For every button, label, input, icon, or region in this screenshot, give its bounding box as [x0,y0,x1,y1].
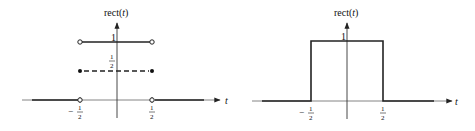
right-panel: rect(t) 1 − 1 2 1 2 t [252,7,458,122]
left-half-level-label: 1 2 [109,53,115,70]
left-xlabel: t [225,95,228,106]
left-panel: rect(t) 1 1 2 − 1 2 1 2 t [22,7,228,121]
left-tick-label-pos-half: 1 2 [149,104,155,121]
svg-text:1: 1 [110,53,114,61]
open-point-top-right [150,40,154,44]
left-level-one-label: 1 [111,32,116,43]
right-level-one-label: 1 [341,31,346,42]
rect-pulse [262,41,434,101]
svg-text:2: 2 [110,62,114,70]
svg-text:1: 1 [381,105,385,113]
right-tick-label-neg-half: − 1 2 [299,105,314,122]
right-tick-label-pos-half: 1 2 [380,105,386,122]
svg-text:−: − [68,106,73,116]
left-ylabel: rect(t) [104,7,128,19]
svg-text:1: 1 [309,105,313,113]
rect-function-figure: rect(t) 1 1 2 − 1 2 1 2 t rect(t) [0,0,475,131]
open-point-axis-right [150,98,154,102]
svg-text:2: 2 [150,113,154,121]
svg-text:2: 2 [309,114,313,122]
svg-text:1: 1 [150,104,154,112]
svg-text:−: − [299,107,304,117]
right-ylabel: rect(t) [334,7,358,19]
right-xlabel: t [455,96,458,107]
svg-text:1: 1 [78,104,82,112]
open-point-top-left [78,40,82,44]
filled-point-half-left [78,69,82,73]
svg-text:2: 2 [78,113,82,121]
left-tick-label-neg-half: − 1 2 [68,104,83,121]
svg-text:2: 2 [381,114,385,122]
open-point-axis-left [78,98,82,102]
filled-point-half-right [150,69,154,73]
